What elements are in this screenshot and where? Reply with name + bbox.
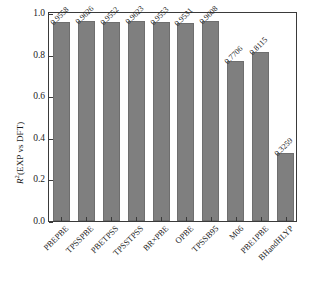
plot-area: 0.95580.96260.95520.96230.95530.95310.96… — [48, 12, 297, 222]
bar — [202, 21, 219, 221]
y-axis-tick-label: 0.8 — [21, 50, 45, 60]
x-axis-tick-mark — [86, 217, 87, 221]
bar — [128, 21, 145, 221]
x-axis-tick-mark — [286, 217, 287, 221]
bar — [227, 61, 244, 221]
bar — [53, 22, 70, 221]
bar — [277, 153, 294, 221]
bar — [177, 23, 194, 221]
y-axis-tick-mark — [49, 14, 53, 15]
x-axis-tick-mark — [211, 217, 212, 221]
x-axis-tick-mark — [186, 217, 187, 221]
bar-chart-figure: R2(EXP vs DFT) 0.00.20.40.60.81.0 0.9558… — [0, 0, 315, 286]
x-axis-tick-mark — [136, 217, 137, 221]
x-axis-tick-mark — [111, 217, 112, 221]
y-axis-tick-labels: 0.00.20.40.60.81.0 — [19, 0, 45, 286]
bar — [153, 22, 170, 221]
bar — [103, 22, 120, 221]
x-axis-tick-labels: PBEPBETPSSPBEPBETPSSTPSSTPSSBR×PBEOPBETP… — [48, 224, 297, 286]
x-axis-tick-mark — [261, 217, 262, 221]
x-axis-tick-mark — [236, 217, 237, 221]
bar — [252, 52, 269, 221]
y-axis-tick-mark — [49, 222, 53, 223]
y-axis-tick-label: 0.2 — [21, 174, 45, 184]
x-axis-tick-mark — [161, 217, 162, 221]
y-axis-tick-label: 1.0 — [21, 8, 45, 18]
y-axis-tick-label: 0.6 — [21, 91, 45, 101]
bar — [78, 21, 95, 221]
y-axis-tick-label: 0.4 — [21, 133, 45, 143]
y-axis-tick-label: 0.0 — [21, 216, 45, 226]
x-axis-tick-mark — [61, 217, 62, 221]
